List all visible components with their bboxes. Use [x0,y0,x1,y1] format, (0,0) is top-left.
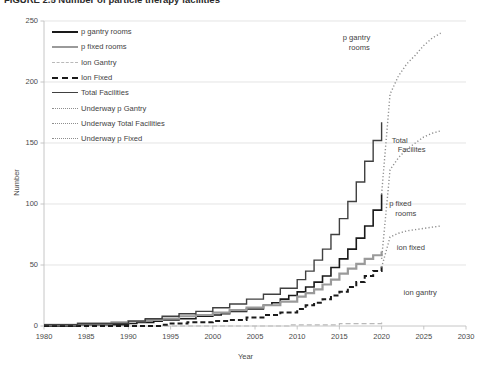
legend-item-label: Underway Total Facilities [81,119,165,128]
x-tick-label: 2010 [277,332,317,341]
legend-swatch-icon [52,88,78,97]
legend-item-label: p fixed rooms [81,42,127,51]
annot-ion-fixed: ion fixed [397,243,425,253]
legend-swatch-icon [52,119,78,128]
annot-ion-gantry-line-0: ion gantry [404,288,437,298]
legend-item-3[interactable]: Ion Fixed [52,70,218,85]
legend-swatch-icon [52,104,78,113]
series-p-gantry-rooms [44,194,382,326]
y-tick-label: 0 [4,321,38,330]
annot-total-facilities: TotalFacilites [392,136,426,155]
annot-p-gantry-rooms-line-1: rooms [343,43,370,53]
y-tick-label: 50 [4,260,38,269]
legend-swatch-icon [52,134,78,143]
legend-item-7[interactable]: Underway p Fixed [52,131,218,146]
x-tick-label: 2030 [446,332,486,341]
legend-item-0[interactable]: p gantry rooms [52,24,218,39]
y-tick-label: 150 [4,138,38,147]
x-tick-label: 2020 [362,332,402,341]
annot-p-gantry-rooms-line-0: p gantry [343,33,370,43]
legend-swatch-icon [52,58,78,67]
x-axis-title: Year [0,352,491,361]
legend-item-label: Total Facilities [81,88,129,97]
x-tick-label: 1980 [24,332,64,341]
legend-swatch-icon [52,73,78,82]
legend-item-2[interactable]: Ion Gantry [52,55,218,70]
legend-item-5[interactable]: Underway p Gantry [52,100,218,115]
x-tick-label: 1985 [66,332,106,341]
annot-p-fixed-rooms: p fixedrooms [389,199,416,218]
legend-item-label: Ion Gantry [81,58,116,67]
x-tick-label: 1990 [108,332,148,341]
annot-ion-gantry: ion gantry [404,288,437,298]
y-tick-label: 250 [4,16,38,25]
x-tick-label: 2025 [404,332,444,341]
series-total-facilities [44,122,382,325]
legend-swatch-icon [52,42,78,51]
x-tick-label: 2005 [235,332,275,341]
x-tick-label: 1995 [151,332,191,341]
legend-item-label: Ion Fixed [81,73,112,82]
y-tick-label: 200 [4,77,38,86]
annot-p-fixed-rooms-line-0: p fixed [389,199,416,209]
figure-panel: FIGURE 2.5 Number of particle therapy fa… [0,0,491,370]
y-tick-label: 100 [4,199,38,208]
annot-p-gantry-rooms: p gantryrooms [343,33,370,52]
series-p-fixed-rooms [44,252,382,325]
legend-item-1[interactable]: p fixed rooms [52,39,218,54]
legend-item-label: Underway p Fixed [81,134,142,143]
chart-legend: p gantry roomsp fixed roomsIon GantryIon… [52,24,218,146]
legend-swatch-icon [52,27,78,36]
legend-item-label: Underway p Gantry [81,104,146,113]
legend-item-6[interactable]: Underway Total Facilities [52,116,218,131]
annot-total-facilities-line-0: Total [392,136,426,146]
legend-item-label: p gantry rooms [81,27,132,36]
legend-item-4[interactable]: Total Facilities [52,85,218,100]
annot-p-fixed-rooms-line-1: rooms [389,209,416,219]
x-tick-label: 2015 [319,332,359,341]
annot-total-facilities-line-1: Facilites [392,145,426,155]
annot-ion-fixed-line-0: ion fixed [397,243,425,253]
x-tick-label: 2000 [193,332,233,341]
